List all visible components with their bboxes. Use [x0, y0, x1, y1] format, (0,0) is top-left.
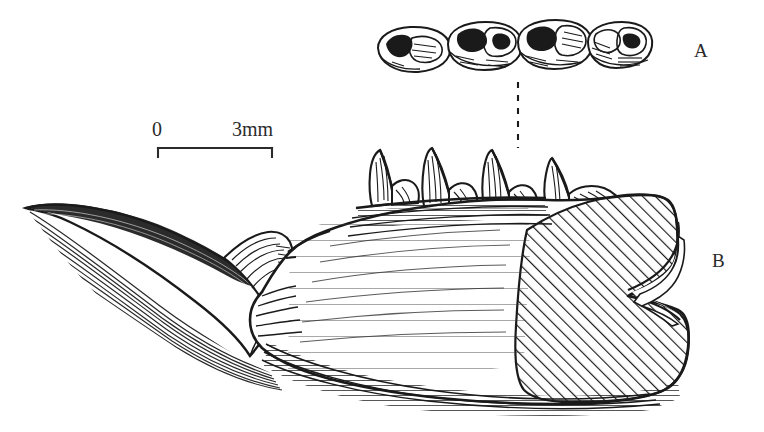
- lateral-tooth-1: [370, 150, 419, 206]
- occlusal-tooth-1: [378, 27, 450, 72]
- mandible-lateral: [26, 148, 695, 425]
- occlusal-tooth-3: [518, 20, 592, 69]
- panel-label-a: A: [694, 40, 708, 62]
- lateral-tooth-2: [423, 148, 478, 206]
- scale-bar-min-label: 0: [152, 118, 162, 141]
- occlusal-tooth-row: [378, 20, 652, 72]
- occlusal-tooth-2: [448, 22, 522, 70]
- figure-illustration: A B 0 3mm: [0, 0, 764, 432]
- incisor: [26, 204, 282, 390]
- ascending-ramus-hatch: [515, 194, 688, 402]
- scale-bar: [158, 148, 272, 157]
- panel-label-b: B: [712, 250, 725, 272]
- mandible-drawing: [0, 0, 764, 432]
- scale-bar-max-label: 3mm: [232, 118, 273, 141]
- occlusal-tooth-4: [588, 22, 652, 68]
